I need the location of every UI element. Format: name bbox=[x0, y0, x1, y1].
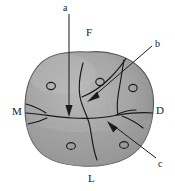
anatomical-figure: a F b M D c L bbox=[0, 0, 175, 191]
region-label-right: D bbox=[156, 105, 164, 116]
region-label-medial: M bbox=[12, 106, 22, 117]
callout-label-a: a bbox=[63, 3, 67, 13]
region-label-frontal: F bbox=[86, 27, 92, 38]
callout-label-c: c bbox=[158, 159, 162, 169]
highlight-upper-left bbox=[28, 54, 96, 94]
callout-label-b: b bbox=[155, 39, 160, 49]
region-label-lower: L bbox=[88, 173, 95, 184]
